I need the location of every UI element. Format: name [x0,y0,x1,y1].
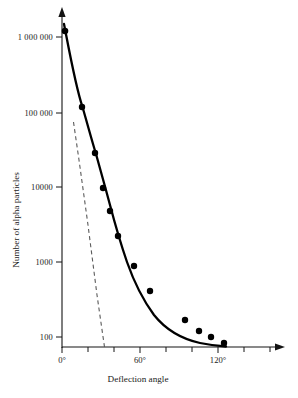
data-point [208,334,214,340]
y-tick-label-1000: 1000 [35,258,53,267]
y-axis-group: 1 000 000 100 000 10000 1000 100 Number … [11,7,66,348]
data-point [196,328,202,334]
data-point [92,150,98,156]
figure-page: 1 000 000 100 000 10000 1000 100 Number … [0,0,298,398]
scatter-plot-figure: 1 000 000 100 000 10000 1000 100 Number … [0,0,298,398]
x-axis-title: Deflection angle [108,374,169,384]
data-point [182,317,188,323]
data-point [147,288,153,294]
y-axis-up-arrow-icon [58,7,65,17]
data-point [79,104,85,110]
data-point [131,263,137,269]
x-tick-label-60: 60° [134,355,147,365]
scattering-curve [64,24,226,347]
data-point [221,340,227,346]
y-tick-label-10000: 10000 [31,183,53,192]
x-axis-group: 0° 60° 120° Deflection angle [58,343,285,384]
x-tick-label-120: 120° [210,355,227,365]
y-tick-label-1000000: 1 000 000 [18,33,53,42]
y-tick-label-100000: 100 000 [24,109,53,118]
data-point [62,28,69,35]
y-tick-label-100: 100 [40,333,53,342]
x-tick-label-0: 0° [58,355,66,365]
data-point [107,208,113,214]
data-point [115,233,121,239]
data-point [100,185,106,191]
dashed-reference-line [74,122,105,347]
x-axis-right-arrow-icon [275,343,285,350]
y-axis-title: Number of alpha particles [11,172,21,268]
